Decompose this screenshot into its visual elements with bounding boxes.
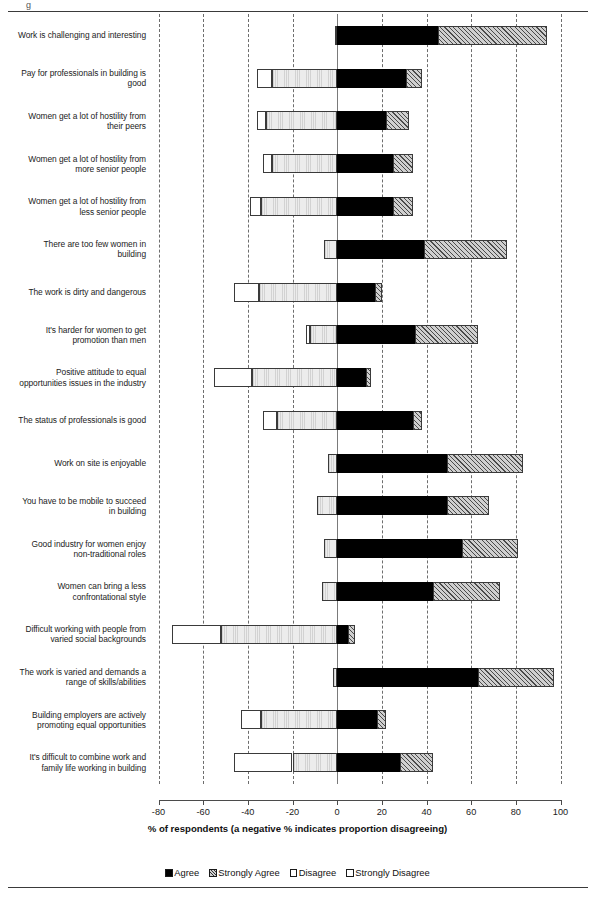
bar-segment-strongly-agree — [406, 69, 422, 88]
bar-segment-strongly-agree — [413, 411, 422, 430]
bar-segment-disagree — [277, 411, 337, 430]
category-label-line: their peers — [4, 121, 146, 131]
category-label: Women can bring a lessconfrontational st… — [4, 581, 146, 601]
bar-segment-agree — [337, 753, 400, 772]
bar-row — [148, 582, 568, 601]
bottom-divider — [8, 887, 588, 888]
bar-segment-agree — [337, 454, 446, 473]
legend-label: Strongly Agree — [218, 867, 280, 878]
bar-segment-strongly-disagree — [250, 197, 261, 216]
x-axis-tick — [248, 800, 249, 805]
bar-row — [148, 69, 568, 88]
bar-segment-strongly-disagree — [234, 753, 292, 772]
category-label-line: Good industry for women enjoy — [4, 539, 146, 549]
x-axis-tick-label: 0 — [335, 807, 340, 817]
category-label-line: Women get a lot of hostility from — [4, 111, 146, 121]
bar-segment-disagree — [259, 283, 337, 302]
x-axis-tick — [293, 800, 294, 805]
x-axis-tick-label: -40 — [241, 807, 254, 817]
x-axis-tick-label: -80 — [152, 807, 165, 817]
legend-item: Strongly Agree — [209, 867, 280, 878]
category-label-line: Women get a lot of hostility from — [4, 154, 146, 164]
legend-label: Agree — [174, 867, 199, 878]
bar-segment-strongly-agree — [386, 111, 408, 130]
category-label-line: The work is dirty and dangerous — [4, 287, 146, 297]
category-label-line: promoting equal opportunities — [4, 720, 146, 730]
agree-swatch-icon — [165, 869, 173, 877]
bar-segment-agree — [337, 710, 377, 729]
category-label: There are too few women inbuilding — [4, 239, 146, 259]
category-label: The status of professionals is good — [4, 415, 146, 425]
x-axis: -80-60-40-20020406080100 — [148, 800, 568, 801]
category-label-line: less senior people — [4, 207, 146, 217]
bar-row — [148, 111, 568, 130]
bar-segment-strongly-disagree — [214, 368, 252, 387]
category-label-line: Women can bring a less — [4, 581, 146, 591]
disagree-swatch-icon — [290, 869, 298, 877]
bar-row — [148, 197, 568, 216]
category-label-line: Pay for professionals in building is — [4, 68, 146, 78]
category-label: Women get a lot of hostility fromless se… — [4, 196, 146, 216]
bar-segment-disagree — [322, 582, 338, 601]
bar-segment-disagree — [272, 154, 337, 173]
category-label: The work is varied and demands arange of… — [4, 667, 146, 687]
bar-row — [148, 325, 568, 344]
category-label: The work is dirty and dangerous — [4, 287, 146, 297]
x-axis-tick-label: 60 — [466, 807, 476, 817]
category-label-line: The status of professionals is good — [4, 415, 146, 425]
category-label-line: You have to be mobile to succeed — [4, 496, 146, 506]
bar-segment-strongly-agree — [375, 283, 382, 302]
category-label-line: range of skills/abilities — [4, 677, 146, 687]
bar-segment-strongly-disagree — [306, 325, 310, 344]
category-label: It's harder for women to getpromotion th… — [4, 325, 146, 345]
bar-segment-agree — [337, 625, 348, 644]
bar-row — [148, 539, 568, 558]
category-label-line: The work is varied and demands a — [4, 667, 146, 677]
legend-label: Disagree — [299, 867, 337, 878]
bar-segment-strongly-agree — [393, 154, 413, 173]
category-label-line: It's harder for women to get — [4, 325, 146, 335]
category-label-line: varied social backgrounds — [4, 634, 146, 644]
x-axis-tick — [382, 800, 383, 805]
bar-segment-disagree — [317, 496, 337, 515]
category-label: You have to be mobile to succeedin build… — [4, 496, 146, 516]
bar-row — [148, 154, 568, 173]
bar-segment-strongly-agree — [447, 496, 489, 515]
plot-area — [148, 14, 568, 784]
bar-segment-agree — [337, 411, 413, 430]
chart-area: Work is challenging and interestingPay f… — [0, 14, 595, 800]
bar-segment-strongly-agree — [348, 625, 355, 644]
bar-row — [148, 26, 568, 45]
x-axis-tick — [159, 800, 160, 805]
x-axis-tick-label: 20 — [377, 807, 387, 817]
strongly-disagree-swatch-icon — [346, 869, 354, 877]
category-label-line: opportunities issues in the industry — [4, 378, 146, 388]
category-label-line: Difficult working with people from — [4, 624, 146, 634]
category-label-line: confrontational style — [4, 592, 146, 602]
category-label: Work on site is enjoyable — [4, 458, 146, 468]
bar-segment-agree — [337, 69, 406, 88]
legend-item: Agree — [165, 867, 199, 878]
category-label-line: Women get a lot of hostility from — [4, 196, 146, 206]
legend-item: Disagree — [290, 867, 337, 878]
x-axis-line — [159, 800, 561, 801]
x-axis-tick — [203, 800, 204, 805]
category-label-line: It's difficult to combine work and — [4, 752, 146, 762]
bar-segment-strongly-agree — [366, 368, 370, 387]
category-label: Good industry for women enjoynon-traditi… — [4, 539, 146, 559]
category-label-line: building — [4, 249, 146, 259]
bar-segment-strongly-agree — [433, 582, 500, 601]
bar-row — [148, 411, 568, 430]
bar-row — [148, 283, 568, 302]
bar-segment-strongly-agree — [415, 325, 478, 344]
bar-segment-disagree — [333, 668, 337, 687]
x-axis-label: % of respondents (a negative % indicates… — [0, 823, 595, 834]
bar-row — [148, 368, 568, 387]
bar-segment-strongly-agree — [438, 26, 547, 45]
x-axis-tick — [516, 800, 517, 805]
bar-segment-agree — [337, 240, 424, 259]
bar-segment-agree — [337, 154, 393, 173]
category-label: Difficult working with people fromvaried… — [4, 624, 146, 644]
bar-segment-strongly-agree — [393, 197, 413, 216]
category-label-line: family life working in building — [4, 763, 146, 773]
